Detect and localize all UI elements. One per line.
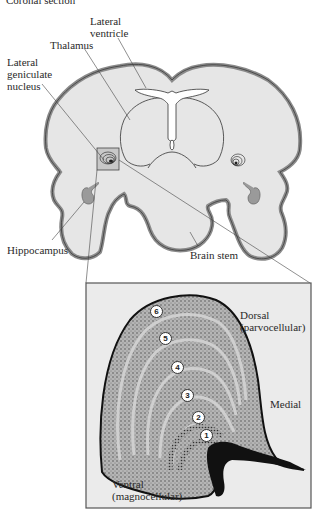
label-ventral: Ventral (magnocellular)	[112, 478, 182, 502]
layer-2-marker: 2	[192, 411, 205, 424]
label-medial: Medial	[270, 398, 301, 410]
layer-5-marker: 5	[159, 332, 172, 345]
label-brain-stem: Brain stem	[190, 249, 238, 261]
label-dorsal: Dorsal (parvocellular)	[240, 309, 305, 333]
lgn-left	[97, 148, 119, 170]
layer-4-marker: 4	[171, 361, 184, 374]
label-lateral-ventricle: Lateral ventricle	[90, 15, 128, 39]
label-thalamus: Thalamus	[50, 39, 93, 51]
figure-header-partial: Coronal section	[6, 0, 75, 6]
layer-1-marker: 1	[200, 429, 213, 442]
label-hippocampus: Hippocampus	[7, 244, 68, 256]
layer-6-marker: 6	[150, 305, 163, 318]
label-lateral-geniculate-nucleus: Lateral geniculate nucleus	[7, 56, 52, 92]
layer-3-marker: 3	[181, 389, 194, 402]
